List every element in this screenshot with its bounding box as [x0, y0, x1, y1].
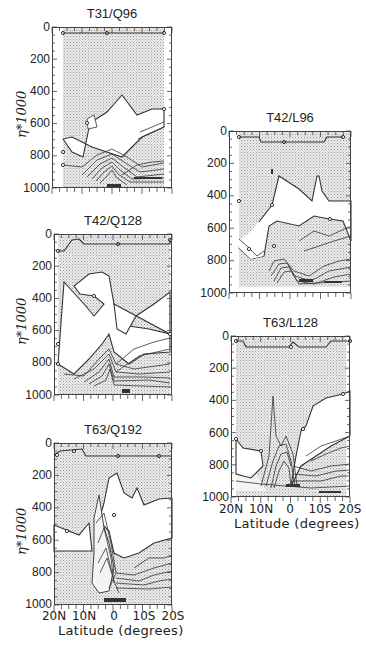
x-tick: 20S — [155, 609, 191, 623]
y-tick: 400 — [22, 500, 52, 514]
panel-title: T31/Q96 — [52, 6, 172, 21]
contour-plot — [54, 234, 172, 395]
y-tick: 800 — [20, 148, 50, 162]
y-tick: 200 — [20, 52, 50, 66]
y-tick: 600 — [22, 323, 52, 337]
y-tick: 200 — [22, 259, 52, 273]
y-tick: 0 — [20, 20, 50, 34]
y-tick: 800 — [197, 253, 227, 267]
contour-plot — [231, 336, 350, 497]
panel-title: T63/L128 — [231, 315, 350, 330]
y-tick: 600 — [20, 116, 50, 130]
y-tick: 800 — [22, 565, 52, 579]
panel-title: T42/L96 — [229, 110, 351, 125]
y-tick: 1000 — [14, 181, 50, 195]
y-tick: 0 — [199, 329, 229, 343]
y-tick: 600 — [22, 533, 52, 547]
y-tick: 600 — [197, 221, 227, 235]
y-tick: 1000 — [16, 388, 52, 402]
y-tick: 200 — [22, 468, 52, 482]
panel-title: T42/Q128 — [54, 213, 172, 228]
y-axis-label: η*1000 — [14, 508, 29, 555]
y-tick: 400 — [22, 291, 52, 305]
panel-title: T63/Q192 — [54, 422, 172, 437]
y-tick: 800 — [22, 355, 52, 369]
contour-plot — [229, 131, 351, 293]
y-tick: 0 — [22, 436, 52, 450]
y-tick: 600 — [199, 426, 229, 440]
y-tick: 0 — [22, 227, 52, 241]
contour-plot — [52, 27, 172, 188]
x-axis-label: Latitude (degrees) — [58, 623, 184, 638]
y-tick: 400 — [197, 188, 227, 202]
y-tick: 200 — [199, 361, 229, 375]
x-tick: 20S — [332, 502, 366, 516]
x-axis-label: Latitude (degrees) — [234, 516, 360, 531]
y-tick: 800 — [199, 458, 229, 472]
y-tick: 200 — [197, 156, 227, 170]
y-tick: 400 — [199, 393, 229, 407]
y-tick: 1000 — [191, 286, 227, 300]
contour-plot — [54, 443, 172, 605]
y-tick: 400 — [20, 84, 50, 98]
y-tick: 0 — [197, 124, 227, 138]
